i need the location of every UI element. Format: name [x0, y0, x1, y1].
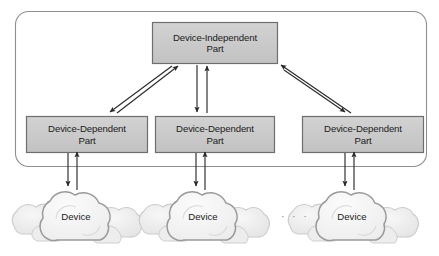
device-cloud-2: [139, 192, 269, 243]
diagram-graphics: [0, 0, 439, 256]
device-dependent-part-1-box[interactable]: [27, 117, 148, 153]
device-independent-part-box[interactable]: [153, 23, 278, 64]
device-dependent-part-3-box[interactable]: [303, 117, 424, 153]
arrow-indep-to-dep1: [110, 66, 172, 112]
device-cloud-3: [288, 192, 418, 243]
diagram-canvas: Device-Independent Part Device-Dependent…: [0, 0, 439, 256]
arrow-dep1-to-indep: [117, 66, 178, 113]
arrow-dep3-to-indep: [281, 65, 351, 113]
device-dependent-part-2-box[interactable]: [156, 117, 275, 153]
device-cloud-1: [12, 192, 142, 243]
arrow-indep-to-dep3: [284, 70, 345, 112]
